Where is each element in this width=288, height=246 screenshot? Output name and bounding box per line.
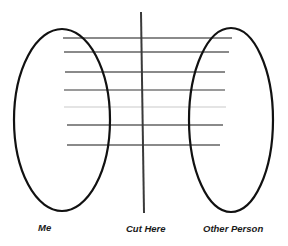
connection-cords [63, 38, 232, 145]
relationship-cord-diagram [0, 0, 288, 246]
other-person-label: Other Person [203, 224, 263, 234]
cut-line [141, 12, 144, 213]
me-label: Me [38, 223, 51, 233]
me-ellipse [14, 29, 110, 211]
other-person-ellipse [189, 28, 273, 212]
cut-here-label: Cut Here [126, 224, 166, 234]
